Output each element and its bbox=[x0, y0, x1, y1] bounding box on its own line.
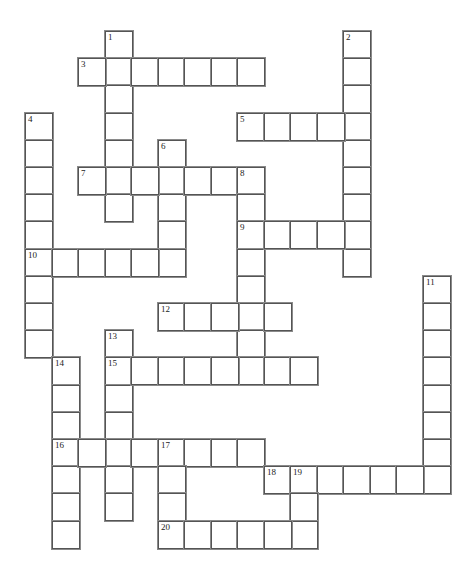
crossword-cell[interactable] bbox=[211, 58, 239, 86]
crossword-cell[interactable]: 7 bbox=[78, 167, 106, 195]
crossword-cell[interactable] bbox=[237, 303, 265, 331]
crossword-cell[interactable] bbox=[237, 521, 265, 549]
crossword-cell[interactable] bbox=[237, 249, 265, 277]
crossword-cell[interactable] bbox=[211, 521, 239, 549]
crossword-cell[interactable] bbox=[343, 221, 371, 249]
crossword-cell[interactable] bbox=[264, 521, 292, 549]
crossword-cell[interactable] bbox=[290, 113, 318, 141]
crossword-cell[interactable] bbox=[264, 221, 292, 249]
crossword-cell[interactable] bbox=[184, 58, 212, 86]
crossword-cell[interactable] bbox=[78, 249, 106, 277]
crossword-cell[interactable] bbox=[423, 466, 451, 494]
crossword-cell[interactable] bbox=[158, 493, 186, 521]
crossword-cell[interactable]: 5 bbox=[237, 113, 265, 141]
crossword-cell[interactable] bbox=[237, 194, 265, 222]
crossword-cell[interactable] bbox=[25, 167, 53, 195]
crossword-cell[interactable] bbox=[396, 466, 424, 494]
crossword-cell[interactable] bbox=[184, 167, 212, 195]
crossword-cell[interactable] bbox=[237, 276, 265, 304]
crossword-cell[interactable]: 6 bbox=[158, 140, 186, 168]
crossword-cell[interactable] bbox=[343, 249, 371, 277]
crossword-cell[interactable] bbox=[211, 303, 239, 331]
crossword-cell[interactable] bbox=[184, 357, 212, 385]
crossword-cell[interactable]: 12 bbox=[158, 303, 186, 331]
crossword-cell[interactable]: 19 bbox=[290, 466, 318, 494]
crossword-cell[interactable] bbox=[25, 194, 53, 222]
crossword-cell[interactable] bbox=[131, 249, 159, 277]
crossword-cell[interactable] bbox=[423, 330, 451, 358]
crossword-cell[interactable] bbox=[25, 303, 53, 331]
crossword-cell[interactable]: 3 bbox=[78, 58, 106, 86]
crossword-cell[interactable]: 11 bbox=[423, 276, 451, 304]
crossword-cell[interactable]: 1 bbox=[105, 31, 133, 59]
crossword-cell[interactable]: 14 bbox=[52, 357, 80, 385]
crossword-cell[interactable] bbox=[131, 58, 159, 86]
crossword-cell[interactable] bbox=[423, 303, 451, 331]
crossword-cell[interactable] bbox=[343, 466, 371, 494]
crossword-cell[interactable] bbox=[184, 439, 212, 467]
crossword-cell[interactable] bbox=[105, 249, 133, 277]
crossword-cell[interactable]: 15 bbox=[105, 357, 133, 385]
crossword-cell[interactable]: 18 bbox=[264, 466, 292, 494]
crossword-cell[interactable] bbox=[237, 357, 265, 385]
crossword-cell[interactable] bbox=[158, 357, 186, 385]
crossword-cell[interactable] bbox=[25, 140, 53, 168]
crossword-cell[interactable] bbox=[211, 439, 239, 467]
crossword-cell[interactable] bbox=[423, 357, 451, 385]
crossword-cell[interactable] bbox=[290, 221, 318, 249]
crossword-cell[interactable] bbox=[343, 194, 371, 222]
crossword-cell[interactable] bbox=[264, 303, 292, 331]
crossword-cell[interactable]: 8 bbox=[237, 167, 265, 195]
crossword-cell[interactable]: 20 bbox=[158, 521, 186, 549]
crossword-cell[interactable]: 16 bbox=[52, 439, 80, 467]
crossword-cell[interactable] bbox=[264, 357, 292, 385]
crossword-cell[interactable] bbox=[158, 221, 186, 249]
crossword-cell[interactable] bbox=[131, 439, 159, 467]
crossword-cell[interactable] bbox=[25, 276, 53, 304]
crossword-cell[interactable]: 10 bbox=[25, 249, 53, 277]
crossword-cell[interactable] bbox=[52, 412, 80, 440]
crossword-cell[interactable] bbox=[105, 385, 133, 413]
crossword-cell[interactable] bbox=[105, 493, 133, 521]
crossword-cell[interactable] bbox=[105, 58, 133, 86]
crossword-cell[interactable] bbox=[52, 249, 80, 277]
crossword-cell[interactable] bbox=[184, 303, 212, 331]
crossword-cell[interactable] bbox=[264, 113, 292, 141]
crossword-cell[interactable] bbox=[290, 521, 318, 549]
crossword-cell[interactable]: 2 bbox=[343, 31, 371, 59]
crossword-cell[interactable] bbox=[105, 113, 133, 141]
crossword-cell[interactable] bbox=[25, 221, 53, 249]
crossword-cell[interactable] bbox=[158, 249, 186, 277]
crossword-cell[interactable] bbox=[105, 412, 133, 440]
crossword-cell[interactable] bbox=[237, 330, 265, 358]
crossword-cell[interactable] bbox=[211, 357, 239, 385]
crossword-cell[interactable] bbox=[290, 493, 318, 521]
crossword-cell[interactable] bbox=[105, 140, 133, 168]
crossword-cell[interactable] bbox=[423, 439, 451, 467]
crossword-cell[interactable] bbox=[78, 439, 106, 467]
crossword-cell[interactable] bbox=[343, 113, 371, 141]
crossword-cell[interactable] bbox=[158, 194, 186, 222]
crossword-cell[interactable] bbox=[370, 466, 398, 494]
crossword-cell[interactable] bbox=[105, 85, 133, 113]
crossword-cell[interactable] bbox=[52, 466, 80, 494]
crossword-cell[interactable] bbox=[317, 466, 345, 494]
crossword-cell[interactable] bbox=[317, 221, 345, 249]
crossword-cell[interactable] bbox=[343, 140, 371, 168]
crossword-cell[interactable]: 17 bbox=[158, 439, 186, 467]
crossword-cell[interactable] bbox=[131, 167, 159, 195]
crossword-cell[interactable] bbox=[105, 466, 133, 494]
crossword-cell[interactable]: 9 bbox=[237, 221, 265, 249]
crossword-cell[interactable] bbox=[52, 493, 80, 521]
crossword-cell[interactable] bbox=[343, 167, 371, 195]
crossword-cell[interactable] bbox=[105, 194, 133, 222]
crossword-cell[interactable] bbox=[343, 58, 371, 86]
crossword-cell[interactable] bbox=[343, 85, 371, 113]
crossword-cell[interactable] bbox=[317, 113, 345, 141]
crossword-cell[interactable]: 13 bbox=[105, 330, 133, 358]
crossword-cell[interactable] bbox=[237, 58, 265, 86]
crossword-cell[interactable]: 4 bbox=[25, 113, 53, 141]
crossword-cell[interactable] bbox=[52, 521, 80, 549]
crossword-cell[interactable] bbox=[290, 357, 318, 385]
crossword-cell[interactable] bbox=[158, 466, 186, 494]
